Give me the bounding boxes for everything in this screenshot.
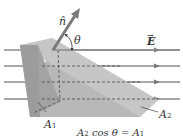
area1-label: A1 <box>44 119 56 132</box>
theta-label: θ <box>74 35 81 46</box>
normal-label: n̂ <box>59 16 66 27</box>
equation: A2 cos θ = A1 <box>77 127 144 140</box>
field-arrowheads <box>154 48 160 102</box>
flux-diagram <box>0 0 183 140</box>
field-vector-arrow-icon: → <box>147 30 154 41</box>
area2-label: A2 <box>159 109 171 122</box>
